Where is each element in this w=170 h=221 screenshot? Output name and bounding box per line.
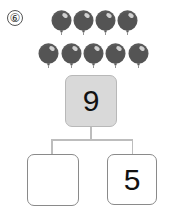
balloon-icon bbox=[83, 43, 104, 69]
balloon-icon bbox=[117, 10, 138, 36]
part-right-value: 5 bbox=[124, 163, 141, 197]
connector-line-horizontal bbox=[51, 139, 133, 141]
balloon-icon bbox=[51, 10, 72, 36]
number-bond-part-right-box: 5 bbox=[107, 154, 157, 205]
number-bond-part-left-box[interactable] bbox=[27, 154, 79, 206]
number-bond-whole-box: 9 bbox=[65, 75, 117, 127]
whole-value: 9 bbox=[83, 84, 100, 118]
balloon-icon bbox=[95, 10, 116, 36]
connector-line-vertical-right bbox=[132, 139, 134, 155]
balloon-icon bbox=[73, 10, 94, 36]
problem-number: ⑥ bbox=[7, 10, 23, 26]
balloon-icon bbox=[61, 43, 82, 69]
connector-line-vertical-left bbox=[51, 139, 53, 155]
balloon-icon bbox=[105, 43, 126, 69]
balloon-icon bbox=[128, 43, 149, 69]
balloon-icon bbox=[38, 43, 59, 69]
